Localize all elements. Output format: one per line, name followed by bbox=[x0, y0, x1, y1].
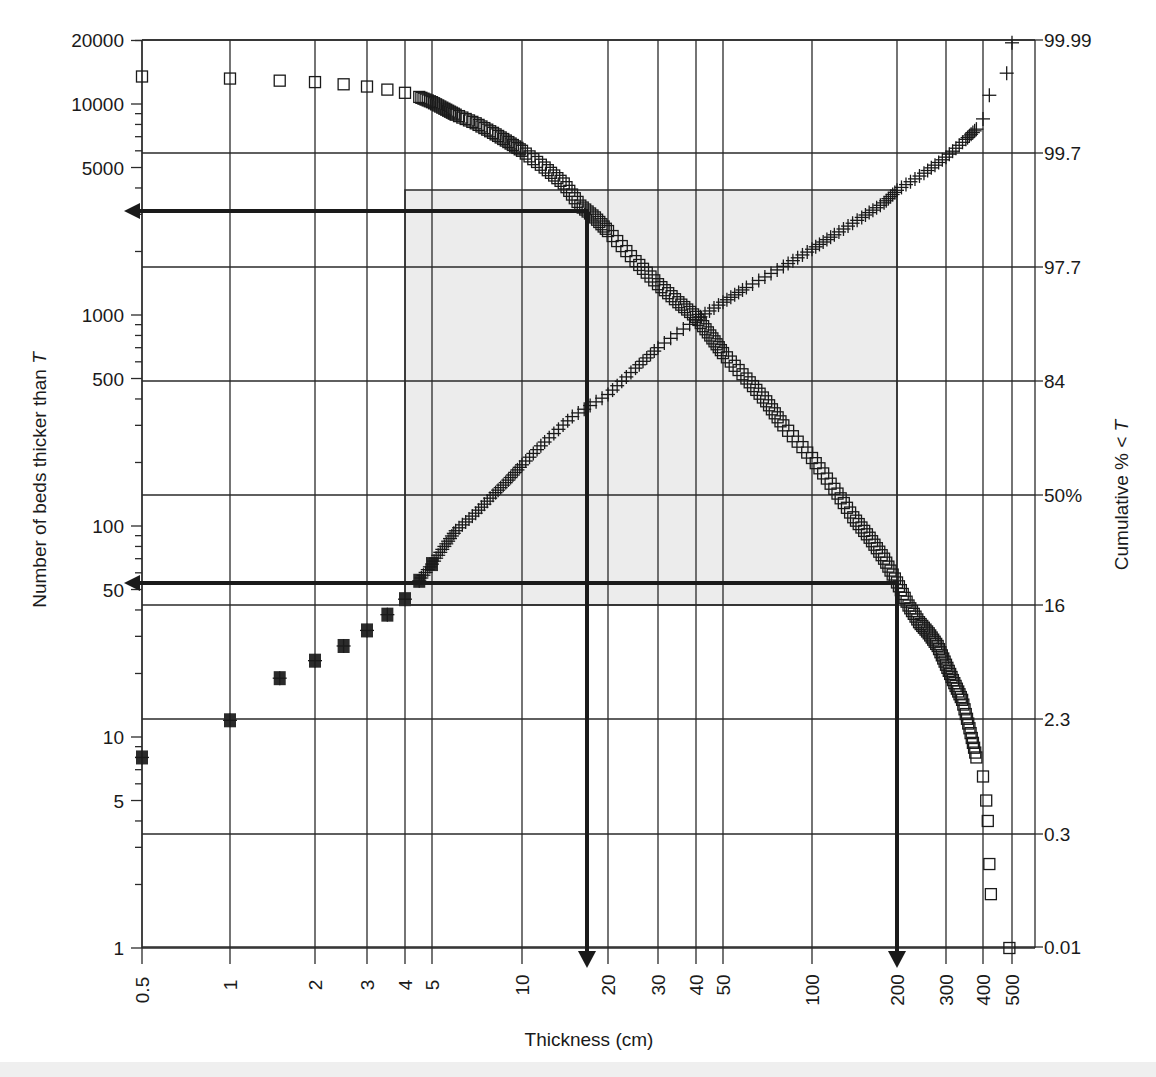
x-tick-label: 100 bbox=[802, 974, 823, 1006]
y-right-tick-label: 97.7 bbox=[1044, 257, 1081, 278]
y-right-tick-label: 99.99 bbox=[1044, 30, 1092, 51]
arrow-down-icon bbox=[888, 951, 906, 968]
x-tick-label: 10 bbox=[512, 974, 533, 995]
x-tick-label: 4 bbox=[395, 979, 416, 990]
x-tick-label: 200 bbox=[887, 974, 908, 1006]
y-right-tick-label: 50% bbox=[1044, 485, 1082, 506]
y-left-tick-label: 5 bbox=[113, 791, 124, 812]
y-right-axis-title: Cumulative % < T bbox=[1111, 418, 1132, 570]
x-tick-label: 40 bbox=[686, 974, 707, 995]
y-left-axis-title: Number of beds thicker than T bbox=[29, 351, 50, 608]
y-left-tick-label: 500 bbox=[92, 369, 124, 390]
x-tick-label: 300 bbox=[936, 974, 957, 1006]
x-axis-title: Thickness (cm) bbox=[525, 1029, 654, 1050]
y-right-tick-label: 99.7 bbox=[1044, 143, 1081, 164]
y-right-tick-label: 0.01 bbox=[1044, 937, 1081, 958]
y-left-tick-label: 20000 bbox=[71, 30, 124, 51]
y-left-tick-label: 100 bbox=[92, 516, 124, 537]
arrow-down-icon bbox=[578, 951, 596, 968]
y-right-tick-label: 16 bbox=[1044, 595, 1065, 616]
open-square-marker bbox=[274, 75, 285, 86]
x-tick-label: 20 bbox=[598, 974, 619, 995]
y-right-tick-label: 2.3 bbox=[1044, 709, 1070, 730]
y-left-tick-label: 50 bbox=[103, 580, 124, 601]
y-left-tick-label: 1 bbox=[113, 938, 124, 959]
y-left-tick-label: 1000 bbox=[82, 305, 124, 326]
x-tick-label: 2 bbox=[305, 980, 326, 991]
arrow-left-icon bbox=[124, 575, 140, 591]
x-tick-label: 30 bbox=[648, 974, 669, 995]
x-tick-label: 0.5 bbox=[132, 977, 153, 1003]
y-left-tick-labels: 200001000050001000500100501051 bbox=[71, 30, 124, 959]
y-left-tick-label: 5000 bbox=[82, 158, 124, 179]
y-left-tick-label: 10 bbox=[103, 727, 124, 748]
bottom-band bbox=[0, 1062, 1156, 1077]
open-square-marker bbox=[985, 889, 996, 900]
arrow-left-icon bbox=[124, 203, 140, 219]
x-tick-label: 1 bbox=[220, 980, 241, 991]
x-tick-label: 50 bbox=[713, 974, 734, 995]
x-tick-label: 5 bbox=[422, 980, 443, 991]
y-left-tick-label: 10000 bbox=[71, 94, 124, 115]
x-tick-label: 3 bbox=[357, 980, 378, 991]
open-square-marker bbox=[984, 859, 995, 870]
x-tick-label: 400 bbox=[973, 974, 994, 1006]
open-square-marker bbox=[338, 79, 349, 90]
y-right-tick-label: 84 bbox=[1044, 371, 1066, 392]
open-square-marker bbox=[982, 815, 993, 826]
shaded-box bbox=[405, 190, 897, 605]
open-square-marker bbox=[382, 84, 393, 95]
x-tick-labels: 0.5123451020304050100200300400500 bbox=[132, 974, 1023, 1006]
y-right-tick-labels: 99.9999.797.78450%162.30.30.01 bbox=[1044, 30, 1092, 958]
chart: 0.5123451020304050100200300400500 200001… bbox=[0, 0, 1156, 1077]
x-tick-label: 500 bbox=[1002, 974, 1023, 1006]
y-right-tick-label: 0.3 bbox=[1044, 824, 1070, 845]
